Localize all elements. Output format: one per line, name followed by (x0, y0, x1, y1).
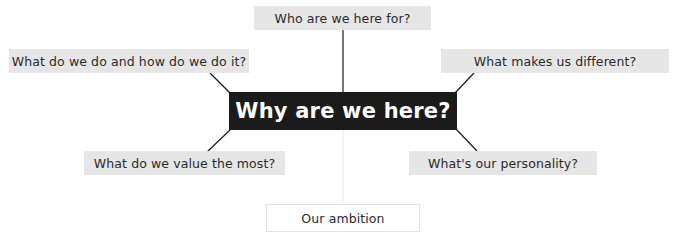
node-what-do-we-do: What do we do and how do we do it? (9, 49, 249, 73)
node-what-makes-us-different: What makes us different? (441, 49, 669, 73)
center-label: Why are we here? (235, 99, 450, 123)
connector-lower-left (207, 130, 230, 152)
node-whats-our-personality: What's our personality? (409, 151, 597, 175)
center-node-why-are-we-here: Why are we here? (229, 92, 457, 130)
node-who-are-we-here-for: Who are we here for? (254, 6, 431, 30)
footer-node-our-ambition: Our ambition (266, 204, 420, 232)
node-label: What do we value the most? (94, 156, 275, 171)
node-label: What makes us different? (474, 54, 636, 69)
node-label: What's our personality? (428, 156, 578, 171)
node-label: What do we do and how do we do it? (12, 54, 246, 69)
connector-lower-right (455, 128, 477, 151)
mind-map: Who are we here for? What do we do and h… (0, 0, 679, 240)
connector-upper-right (455, 73, 474, 93)
node-label: Who are we here for? (275, 11, 411, 26)
node-what-do-we-value: What do we value the most? (84, 151, 285, 175)
footer-label: Our ambition (301, 211, 384, 226)
